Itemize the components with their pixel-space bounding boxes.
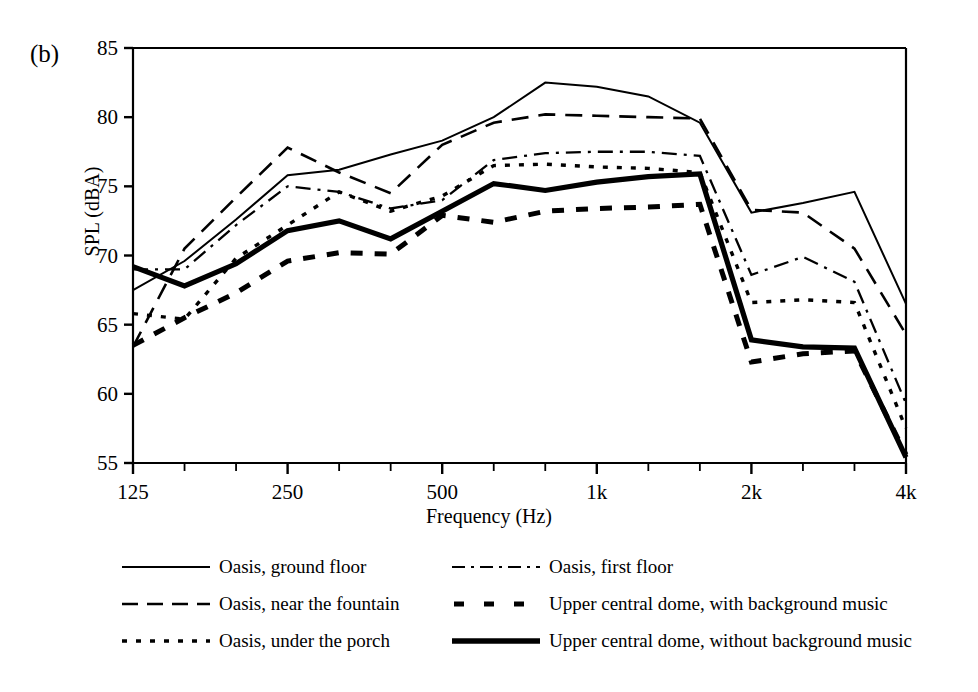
- legend-swatch-solid-thin: [120, 560, 212, 574]
- x-tick-label: 1k: [586, 480, 608, 504]
- figure-panel: (b) 556065707580851252505001k2k4k SPL (d…: [0, 0, 978, 692]
- y-tick-label: 85: [97, 36, 118, 60]
- x-tick-label: 125: [117, 480, 149, 504]
- legend-swatch-dotted: [120, 634, 212, 648]
- legend: Oasis, ground floor Oasis, first floor O…: [120, 548, 960, 659]
- legend-swatch-solid-thick: [450, 634, 542, 648]
- legend-label: Oasis, near the fountain: [219, 593, 399, 615]
- legend-item-upper-dome-without-music: Upper central dome, without background m…: [450, 630, 950, 652]
- y-tick-label: 55: [97, 451, 118, 475]
- legend-swatch-dashed-thick: [450, 597, 542, 611]
- legend-row: Oasis, near the fountain Upper central d…: [120, 585, 960, 622]
- legend-label: Upper central dome, without background m…: [549, 630, 912, 652]
- legend-label: Upper central dome, with background musi…: [549, 593, 888, 615]
- y-tick-label: 60: [97, 382, 118, 406]
- series-line-0: [133, 83, 906, 304]
- legend-item-oasis-under-the-porch: Oasis, under the porch: [120, 630, 450, 652]
- legend-swatch-dashed: [120, 597, 212, 611]
- x-tick-label: 500: [426, 480, 458, 504]
- series-line-1: [133, 114, 906, 346]
- y-axis-label: SPL (dBA): [81, 112, 104, 312]
- legend-item-oasis-near-the-fountain: Oasis, near the fountain: [120, 593, 450, 615]
- legend-item-oasis-first-floor: Oasis, first floor: [450, 556, 950, 578]
- x-tick-label: 250: [272, 480, 304, 504]
- legend-row: Oasis, under the porch Upper central dom…: [120, 622, 960, 659]
- series-line-4: [133, 204, 906, 454]
- series-line-2: [133, 164, 906, 428]
- legend-item-oasis-ground-floor: Oasis, ground floor: [120, 556, 450, 578]
- legend-label: Oasis, ground floor: [219, 556, 366, 578]
- x-tick-label: 4k: [896, 480, 918, 504]
- legend-row: Oasis, ground floor Oasis, first floor: [120, 548, 960, 585]
- legend-label: Oasis, first floor: [549, 556, 673, 578]
- legend-swatch-dash-dot: [450, 560, 542, 574]
- x-tick-label: 2k: [741, 480, 763, 504]
- x-axis-label: Frequency (Hz): [0, 505, 978, 528]
- legend-label: Oasis, under the porch: [219, 630, 390, 652]
- y-tick-label: 65: [97, 313, 118, 337]
- legend-item-upper-dome-with-music: Upper central dome, with background musi…: [450, 593, 950, 615]
